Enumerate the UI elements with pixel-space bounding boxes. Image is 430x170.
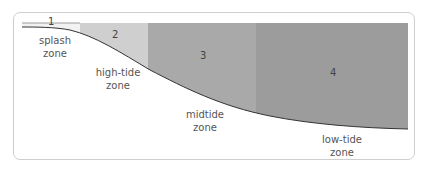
zone-4-region (256, 23, 408, 133)
zone-4-number: 4 (330, 67, 336, 78)
zone-1-number: 1 (48, 16, 54, 27)
zone-2-number: 2 (112, 29, 118, 40)
zone-4-label: low-tide zone (314, 133, 370, 159)
zone-3-label: midtide zone (180, 108, 230, 134)
zone-2-label: high-tide zone (90, 66, 146, 92)
zone-1-label: splash zone (30, 34, 80, 60)
zone-3-number: 3 (200, 50, 206, 61)
